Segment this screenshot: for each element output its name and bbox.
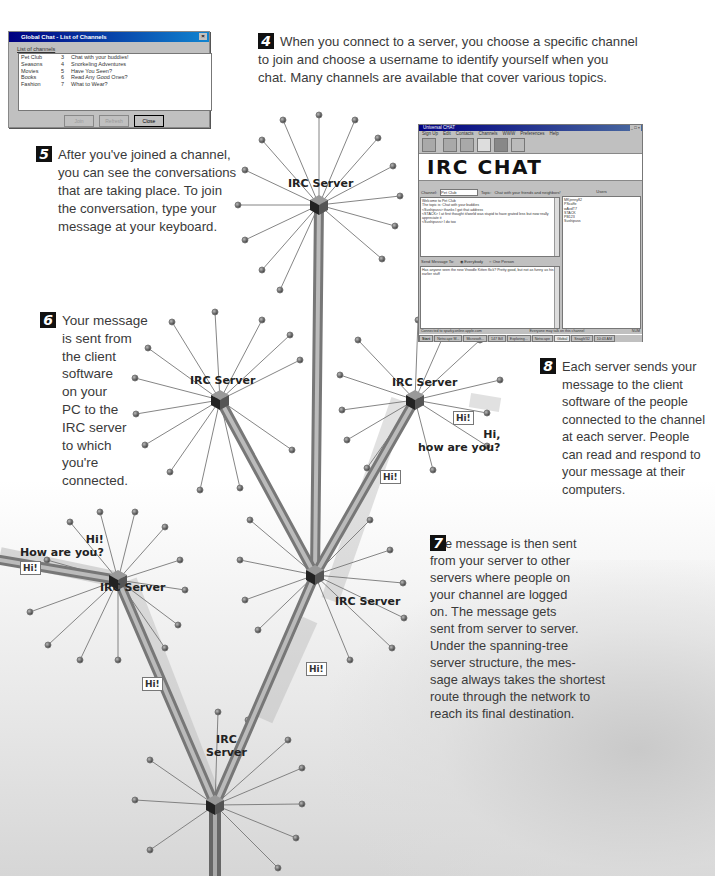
channel-row[interactable]: Fashion7What to Wear? (19, 81, 211, 88)
server-label-mid-right: IRC Server (392, 376, 457, 389)
step-6-text: Your message is sent from the client sof… (62, 312, 148, 490)
step-4-text: When you connect to a server, you choose… (258, 34, 638, 85)
taskbar-item[interactable]: Exploring... (507, 335, 531, 342)
dialog-title-bar: Global Chat - List of Channels × (9, 32, 209, 42)
dialog-title: Global Chat - List of Channels (21, 34, 107, 40)
taskbar-item[interactable]: Netscape M... (434, 335, 462, 342)
menu-www[interactable]: WWW (503, 131, 516, 137)
message-hi-box: Hi! (453, 411, 474, 425)
taskbar-item[interactable]: Microsoft... (463, 335, 487, 342)
pattern-icon[interactable] (477, 138, 491, 152)
channel-select[interactable]: Pet Club (440, 189, 478, 196)
message-hi-box: Hi! (306, 662, 327, 676)
image-icon[interactable] (511, 138, 525, 152)
step-4: 4When you connect to a server, you choos… (258, 33, 638, 87)
topic-value: Chat with your friends and neighbors! (494, 190, 560, 195)
step-8-text: Each server sends your message to the cl… (562, 358, 705, 498)
start-button[interactable]: Start (419, 335, 433, 342)
connect-icon[interactable] (422, 138, 436, 152)
message-reply-right: Hi, how are you? (418, 428, 500, 454)
message-hi-box: Hi! (20, 561, 41, 575)
server-label-bottom: IRC Server (206, 733, 247, 759)
taskbar-item-active[interactable]: Global (554, 335, 570, 342)
color-icon[interactable] (494, 138, 508, 152)
step-number-badge: 8 (540, 358, 556, 374)
users-header: Users (562, 189, 641, 195)
step-number-badge: 5 (36, 146, 52, 162)
channel-list[interactable]: Pet Club3Chat with your buddies! Seasons… (18, 53, 212, 111)
toolbar (419, 137, 642, 153)
step-8: 8Each server sends your message to the c… (540, 358, 705, 498)
conversation-pane[interactable]: Welcome to Pet Club The topic is: Chat w… (420, 197, 560, 257)
message-hi-box: Hi! (380, 470, 401, 484)
step-number-badge: 4 (258, 33, 274, 49)
channel-list-label: List of channels (17, 46, 55, 52)
chat-banner: IRC CHAT (419, 153, 642, 181)
menu-edit[interactable]: Edit (443, 131, 451, 137)
server-label-center: IRC Server (335, 595, 400, 608)
radio-everybody[interactable]: ◉ Everybody (460, 259, 483, 265)
message-reply-left: Hi! How are you? (20, 533, 104, 559)
users-list[interactable]: MKjenny82 PScaffe wAvdT7 STACK PB123 Sus… (562, 196, 641, 329)
close-button[interactable]: Close (134, 115, 164, 127)
refresh-button[interactable]: Refresh (99, 115, 129, 127)
step-5: 5After you've joined a channel, you can … (36, 146, 236, 236)
message-hi-box: Hi! (142, 677, 163, 691)
step-5-text: After you've joined a channel, you can s… (58, 146, 236, 236)
close-icon[interactable]: × (199, 33, 207, 40)
irc-chat-window: Universal CHAT _ □ × Sign Up Edit Contac… (418, 124, 643, 342)
chat-line: <STACK> I at first thought it/world was … (422, 212, 558, 221)
scrollbar[interactable] (554, 198, 559, 256)
taskbar-item[interactable]: 147 Bill (488, 335, 506, 342)
send-to-bar: Send Message To: ◉ Everybody ○ One Perso… (420, 259, 561, 265)
step-number-badge: 6 (40, 312, 56, 328)
menu-sign-up[interactable]: Sign Up (422, 131, 438, 137)
taskbar-item[interactable]: Netscape (532, 335, 553, 342)
channel-list-dialog: Global Chat - List of Channels × List of… (8, 31, 210, 128)
channel-row[interactable]: Movies5Have You Seen? (19, 68, 211, 75)
channel-bar: Channel: Pet Club Topic: Chat with your … (419, 189, 562, 196)
text-icon[interactable] (460, 138, 474, 152)
taskbar-clock: 10:43 AM (594, 335, 615, 342)
join-button[interactable]: Join (64, 115, 94, 127)
chat-window-title: Universal CHAT (423, 125, 455, 130)
server-label-top: IRC Server (288, 177, 353, 190)
window-controls-icon[interactable]: _ □ × (630, 125, 641, 131)
channels-icon[interactable] (443, 138, 457, 152)
server-label-left: IRC Server (100, 581, 165, 594)
menu-contacts[interactable]: Contacts (456, 131, 474, 137)
menu-preferences[interactable]: Preferences (520, 131, 544, 137)
message-text: Has anyone seen the new Vroodle Kitten f… (422, 268, 554, 276)
menu-channels[interactable]: Channels (479, 131, 498, 137)
server-cubes (109, 195, 424, 815)
scrollbar[interactable] (554, 267, 559, 328)
chat-title-bar: Universal CHAT _ □ × (419, 125, 642, 131)
taskbar: Start Netscape M... Microsoft... 147 Bil… (419, 334, 642, 342)
channel-row[interactable]: Books6Read Any Good Ones? (19, 74, 211, 81)
user-item[interactable]: Sushipuss (564, 219, 639, 223)
step-6: 6Your message is sent from the client so… (40, 312, 148, 490)
channel-row[interactable]: Seasons4Snorkeling Adventures (19, 61, 211, 68)
step-7: 7The message is then sent from your serv… (430, 535, 605, 722)
send-to-label: Send Message To: (421, 259, 454, 265)
chat-line: <Sushipuss> I do too (422, 220, 558, 224)
menu-help[interactable]: Help (550, 131, 559, 137)
topic-label: Topic: (481, 190, 491, 195)
server-label-mid-left: IRC Server (190, 374, 255, 387)
taskbar-item[interactable]: SnagIt/32 (571, 335, 592, 342)
channel-row[interactable]: Pet Club3Chat with your buddies! (19, 54, 211, 61)
channel-label: Channel: (421, 190, 437, 195)
step-7-text: The message is then sent from your serve… (430, 535, 605, 722)
radio-one-person[interactable]: ○ One Person (489, 259, 514, 265)
message-input[interactable]: Has anyone seen the new Vroodle Kitten f… (420, 266, 560, 329)
step-number-badge: 7 (430, 535, 446, 551)
